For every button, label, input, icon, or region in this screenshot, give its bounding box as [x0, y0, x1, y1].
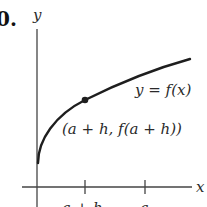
- tick-label-a-plus-h: a + h: [62, 199, 103, 207]
- function-graph-diagram: 0. y x y = f(x) (a + h, f(a + h)) a + h …: [0, 0, 207, 207]
- problem-number: 0.: [0, 7, 17, 31]
- point-label: (a + h, f(a + h)): [62, 120, 182, 138]
- curve-label: y = f(x): [134, 81, 191, 99]
- point-a-plus-h: [82, 97, 89, 104]
- curve-f: [38, 59, 190, 163]
- tick-label-a: a: [140, 199, 149, 207]
- x-axis-label: x: [196, 178, 205, 196]
- y-axis-label: y: [32, 6, 42, 24]
